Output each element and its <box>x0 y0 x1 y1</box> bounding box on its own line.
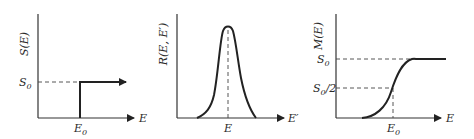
s0-half-tick-label: S0/2 <box>313 82 336 97</box>
panel-response-function: R(E, E′) E′ E <box>157 14 299 135</box>
x-axis-label: E <box>138 112 147 125</box>
figure: S(E) E S0 E0 R(E, E′) E′ E M(E) E S0 S0/… <box>0 0 474 139</box>
s0-tick-label: S0 <box>19 76 32 91</box>
panel-measured-function: M(E) E S0 S0/2 E0 <box>312 14 454 137</box>
e0-tick-label: E0 <box>386 122 400 137</box>
y-axis-label: M(E) <box>312 22 325 51</box>
panel-step-function: S(E) E S0 E0 <box>18 14 147 137</box>
y-axis-label: S(E) <box>18 32 31 56</box>
step-curve <box>80 82 126 118</box>
peak-curve <box>197 27 256 119</box>
e0-tick-label: E0 <box>73 122 87 137</box>
y-axis-label: R(E, E′) <box>157 23 170 66</box>
e-tick-label: E <box>223 122 232 135</box>
x-axis-label: E <box>445 112 454 125</box>
s0-tick-label: S0 <box>317 53 330 68</box>
x-axis-label: E′ <box>287 112 299 125</box>
